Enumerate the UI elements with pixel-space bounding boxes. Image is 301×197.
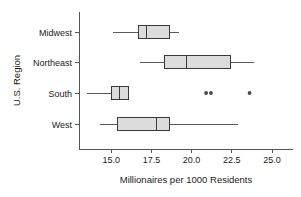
x-axis-title: Millionaires per 1000 Residents: [120, 174, 253, 185]
outlier-point: [248, 91, 252, 95]
boxplot-canvas: 15.017.520.022.525.0MidwestNortheastSout…: [0, 0, 301, 197]
box: [118, 118, 169, 131]
y-tick-label-west: West: [52, 120, 73, 130]
y-axis-title: U.S. Region: [11, 55, 22, 106]
y-tick-label-midwest: Midwest: [39, 28, 73, 38]
x-tick-label: 17.5: [143, 155, 161, 165]
box: [139, 26, 170, 39]
y-tick-label-northeast: Northeast: [33, 58, 73, 68]
boxplot-group-south: [87, 87, 251, 100]
boxplot-group-northeast: [140, 56, 254, 69]
box: [111, 87, 129, 100]
boxplot-group-west: [100, 118, 238, 131]
x-tick-label: 22.5: [223, 155, 241, 165]
y-tick-label-south: South: [48, 89, 72, 99]
x-tick-label: 15.0: [102, 155, 120, 165]
outlier-point: [204, 91, 208, 95]
box: [164, 56, 230, 69]
outlier-point: [209, 91, 213, 95]
x-tick-label: 20.0: [183, 155, 201, 165]
boxplot-group-midwest: [113, 26, 179, 39]
x-tick-label: 25.0: [263, 155, 281, 165]
boxplot-figure: 15.017.520.022.525.0MidwestNortheastSout…: [0, 0, 301, 197]
